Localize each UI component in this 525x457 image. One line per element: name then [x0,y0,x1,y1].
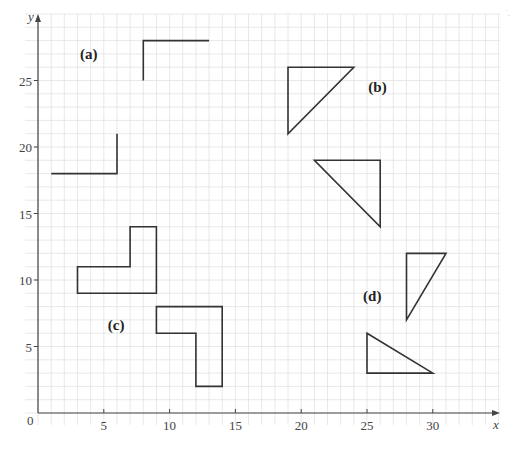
part-b-shape-1 [288,67,354,134]
x-tick-label: 10 [163,418,176,433]
part-a-shape-1 [51,134,117,174]
x-tick-label: 30 [426,418,439,433]
y-tick-label: 20 [19,140,32,155]
part-b-shape-2 [314,160,380,227]
part-d-shape-1 [407,253,447,320]
y-tick-label: 25 [19,74,32,89]
y-tick-label: 5 [26,340,33,355]
x-axis-label: x [492,417,499,432]
y-tick-label: 15 [19,207,32,222]
part-label-b: (b) [368,79,386,96]
part-d-shape-2 [367,333,433,373]
x-tick-label: 25 [361,418,374,433]
part-label-a: (a) [80,46,98,63]
x-tick-label: 5 [101,418,108,433]
coordinate-grid-figure: x y 0 51015202530510152025 (a)(b)(c)(d) … [0,0,525,457]
part-label-d: (d) [363,288,381,305]
y-axis-arrow-icon [35,14,41,22]
part-a-shape-2 [143,41,209,81]
y-tick-label: 10 [19,273,32,288]
corner-mark: ˙․ [506,10,510,17]
x-tick-label: 15 [229,418,242,433]
axes: x y 0 [26,9,500,432]
origin-label: 0 [27,413,34,428]
y-axis-label: y [26,9,34,24]
part-label-c: (c) [108,317,125,334]
x-tick-label: 20 [295,418,308,433]
grid [25,14,500,425]
